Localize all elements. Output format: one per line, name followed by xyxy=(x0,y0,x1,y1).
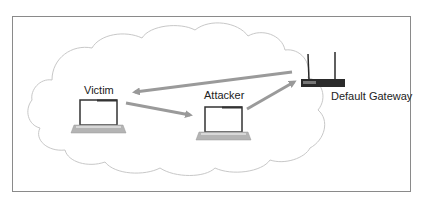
arrow-victim-to-attacker xyxy=(126,103,190,115)
gateway-label: Default Gateway xyxy=(331,90,412,102)
router-icon xyxy=(301,52,345,87)
attacker-laptop-icon xyxy=(196,107,251,141)
arrow-attacker-to-gateway xyxy=(247,82,294,109)
victim-label: Victim xyxy=(84,84,114,96)
cloud-icon xyxy=(28,23,325,176)
victim-laptop-icon xyxy=(71,100,126,134)
attacker-label: Attacker xyxy=(204,89,244,101)
